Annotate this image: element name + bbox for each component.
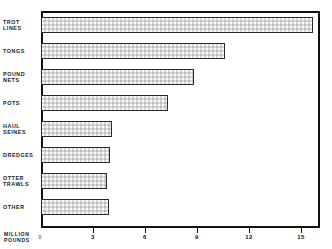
x-tick-label: 15 <box>297 234 304 240</box>
category-label-haul-seines: HAULSEINES <box>3 123 41 136</box>
category-label-line: POTS <box>3 100 41 106</box>
x-tick-mark <box>197 228 198 233</box>
x-axis: 03691215 <box>41 228 322 249</box>
x-axis-title-line-2: POUNDS <box>4 237 48 243</box>
bar <box>41 199 109 215</box>
category-label-other: OTHER <box>3 204 41 210</box>
bar <box>41 121 112 137</box>
category-label-pots: POTS <box>3 100 41 106</box>
category-label-trot-lines: TROTLINES <box>3 19 41 32</box>
category-label-line: SEINES <box>3 129 41 135</box>
category-label-line: OTHER <box>3 204 41 210</box>
x-tick-mark <box>301 228 302 233</box>
x-tick-label: 6 <box>143 234 147 240</box>
category-label-dredges: DREDGES <box>3 152 41 158</box>
category-label-pound-nets: POUNDNETS <box>3 71 41 84</box>
chart-title: VIRGINIA — CATCH BY GEAR, 1971 <box>0 0 332 1</box>
bar <box>41 17 313 33</box>
bar <box>41 95 168 111</box>
bar <box>41 173 107 189</box>
category-label-line: NETS <box>3 77 41 83</box>
x-tick-label: 3 <box>91 234 95 240</box>
category-label-line: DREDGES <box>3 152 41 158</box>
category-label-line: LINES <box>3 25 41 31</box>
x-axis-title: MILLION POUNDS <box>4 231 48 244</box>
category-label-tongs: TONGS <box>3 48 41 54</box>
bar <box>41 43 225 59</box>
bar <box>41 147 110 163</box>
category-label-line: TONGS <box>3 48 41 54</box>
bar <box>41 69 194 85</box>
x-tick-mark <box>145 228 146 233</box>
category-label-otter-trawls: OTTERTRAWLS <box>3 175 41 188</box>
x-tick-mark <box>249 228 250 233</box>
x-tick-label: 9 <box>195 234 199 240</box>
category-label-line: TRAWLS <box>3 181 41 187</box>
x-tick-mark <box>93 228 94 233</box>
x-tick-label: 12 <box>245 234 252 240</box>
